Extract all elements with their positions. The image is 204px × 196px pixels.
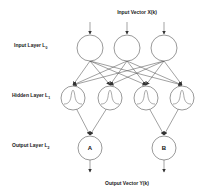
hidden-node-4 <box>170 86 194 110</box>
output-vector-label: Output Vector Y(k) <box>105 180 149 186</box>
input-node-3 <box>151 35 177 61</box>
input-hidden-edges <box>73 61 182 85</box>
hidden-layer-label: Hidden Layer L1 <box>12 92 50 100</box>
hidden-layer-nodes <box>61 86 194 110</box>
output-node-a-label: A <box>88 145 93 151</box>
hidden-node-2 <box>98 86 122 110</box>
output-node-b-label: B <box>162 145 167 151</box>
hidden-output-edges <box>76 108 179 135</box>
input-layer-nodes <box>77 35 177 61</box>
output-layer-nodes: A B <box>78 136 176 160</box>
output-layer-label: Output Layer L2 <box>12 142 50 150</box>
output-arrows <box>90 160 164 172</box>
input-vector-label: Input Vector X(k) <box>117 9 157 15</box>
input-arrows <box>90 22 164 34</box>
hidden-node-1 <box>61 86 85 110</box>
input-node-2 <box>114 35 140 61</box>
input-node-1 <box>77 35 103 61</box>
hidden-node-3 <box>134 86 158 110</box>
input-layer-label: Input Layer L0 <box>14 42 47 50</box>
rbf-network-diagram: Input Vector X(k) Input Layer L0 Hidden … <box>0 0 204 196</box>
